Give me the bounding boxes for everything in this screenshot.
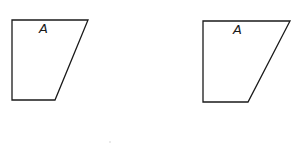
- trapezoid-left-figure: A: [12, 20, 88, 100]
- trapezoid-right-label: A: [232, 22, 242, 37]
- trapezoid-left-label: A: [38, 21, 48, 36]
- trapezoid-right: [203, 21, 290, 102]
- trapezoid-left: [12, 20, 88, 100]
- diagram-canvas: A A: [0, 0, 296, 146]
- speck-mark: [109, 141, 111, 143]
- trapezoid-right-figure: A: [203, 21, 290, 102]
